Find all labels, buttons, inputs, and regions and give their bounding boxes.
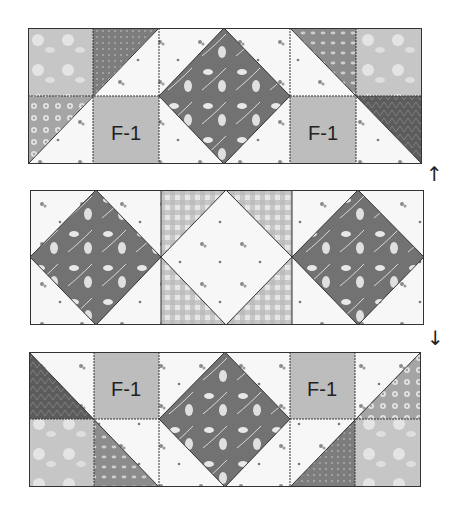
quilt-row-top: F-1 F-1 [28,28,422,164]
top-row-blocks: F-1 F-1 [28,28,422,164]
label-f1-top-right: F-1 [308,122,338,144]
label-f1-bottom-left: F-1 [111,378,141,400]
bottom-row-blocks: F-1 F-1 [29,352,421,487]
middle-row-blocks [30,190,424,325]
label-f1-bottom-right: F-1 [307,378,337,400]
label-f1-top-left: F-1 [111,122,141,144]
arrow-down-icon: ↓ [427,328,444,348]
quilt-row-middle [30,190,424,325]
arrow-up-icon: ↑ [426,164,443,184]
quilt-row-bottom: F-1 F-1 [29,352,421,487]
